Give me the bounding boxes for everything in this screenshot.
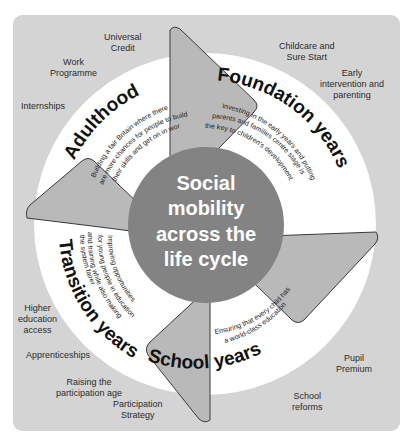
- policy-line: Work: [50, 57, 97, 68]
- policy-line: Participation: [113, 399, 163, 410]
- policy-line: parenting: [320, 90, 384, 101]
- policy-raising-participation-age: Raising the participation age: [56, 377, 122, 399]
- policy-work-programme: Work Programme: [50, 57, 97, 79]
- policy-line: Programme: [50, 68, 97, 79]
- policy-participation-strategy: Participation Strategy: [113, 399, 163, 421]
- policy-line: Higher: [18, 303, 57, 314]
- policy-line: Premium: [336, 364, 372, 375]
- policy-line: intervention and: [320, 79, 384, 90]
- policy-universal-credit: Universal Credit: [104, 32, 142, 54]
- center-line: life cycle: [164, 248, 249, 270]
- policy-internships: Internships: [21, 101, 65, 112]
- policy-line: Sure Start: [279, 52, 335, 63]
- center-line: across the: [156, 223, 256, 245]
- policy-line: Apprenticeships: [26, 350, 90, 361]
- policy-higher-education-access: Higher education access: [18, 303, 57, 336]
- policy-line: Strategy: [113, 410, 163, 421]
- policy-line: Childcare and: [279, 41, 335, 52]
- policy-line: reforms: [292, 402, 323, 413]
- policy-line: Raising the: [56, 377, 122, 388]
- policy-line: School: [292, 391, 323, 402]
- center-line: mobility: [168, 197, 246, 219]
- policy-childcare-sure-start: Childcare and Sure Start: [279, 41, 335, 63]
- policy-line: Universal: [104, 32, 142, 43]
- policy-apprenticeships: Apprenticeships: [26, 350, 90, 361]
- center-line: Social: [177, 172, 236, 194]
- policy-line: Pupil: [336, 353, 372, 364]
- policy-line: participation age: [56, 388, 122, 399]
- policy-school-reforms: School reforms: [292, 391, 323, 413]
- policy-pupil-premium: Pupil Premium: [336, 353, 372, 375]
- policy-line: education: [18, 314, 57, 325]
- policy-line: Internships: [21, 101, 65, 112]
- policy-early-intervention: Early intervention and parenting: [320, 68, 384, 101]
- policy-line: access: [18, 325, 57, 336]
- policy-line: Early: [320, 68, 384, 79]
- policy-line: Credit: [104, 43, 142, 54]
